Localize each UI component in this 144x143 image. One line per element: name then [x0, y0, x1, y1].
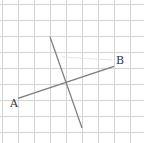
grid-diagram: A B	[0, 0, 144, 143]
grid	[0, 0, 144, 143]
construction-trace-line	[62, 57, 112, 60]
point-a-label: A	[9, 97, 19, 110]
point-b-label: B	[116, 54, 124, 67]
